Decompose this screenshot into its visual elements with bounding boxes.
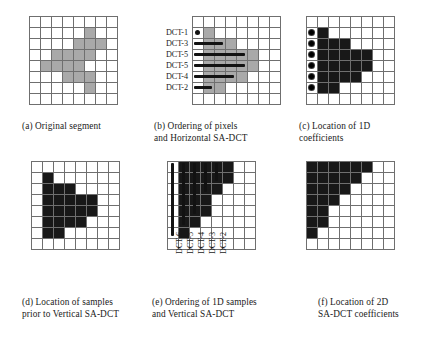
grid-cell	[223, 217, 234, 228]
panel-f	[306, 161, 395, 250]
grid-cell	[193, 39, 204, 50]
grid-cell	[351, 184, 362, 195]
grid-cell	[96, 17, 107, 28]
grid-cell	[226, 39, 237, 50]
panel-a-grid	[29, 16, 118, 105]
grid-cell	[87, 239, 98, 250]
grid-cell	[373, 206, 384, 217]
grid-cell	[179, 206, 190, 217]
grid-cell	[307, 239, 318, 250]
grid-cell	[212, 173, 223, 184]
grid-cell	[87, 228, 98, 239]
grid-cell	[340, 173, 351, 184]
grid-cell	[340, 17, 351, 28]
grid-cell	[204, 50, 215, 61]
grid-cell	[340, 217, 351, 228]
grid-cell	[43, 206, 54, 217]
grid-cell	[318, 94, 329, 105]
grid-cell	[54, 184, 65, 195]
grid-cell	[340, 239, 351, 250]
grid-cell	[226, 50, 237, 61]
grid-cell	[179, 217, 190, 228]
grid-cell	[234, 228, 245, 239]
grid-cell	[76, 184, 87, 195]
grid-cell	[373, 28, 384, 39]
grid-cell	[179, 162, 190, 173]
grid-cell	[362, 28, 373, 39]
grid-cell	[270, 28, 281, 39]
grid-cell	[109, 184, 120, 195]
grid-cell	[362, 50, 373, 61]
grid-cell	[351, 39, 362, 50]
grid-cell	[168, 217, 179, 228]
grid-cell	[30, 94, 41, 105]
grid-cell	[384, 39, 395, 50]
grid-cell	[52, 50, 63, 61]
grid-cell	[87, 173, 98, 184]
grid-cell	[212, 184, 223, 195]
grid-cell	[362, 239, 373, 250]
grid-cell	[43, 162, 54, 173]
grid-cell	[318, 61, 329, 72]
grid-cell	[362, 184, 373, 195]
grid-cell	[223, 195, 234, 206]
grid-cell	[179, 195, 190, 206]
grid-cell	[109, 228, 120, 239]
grid-cell	[65, 217, 76, 228]
panel-b: DCT-1DCT-3DCT-5DCT-5DCT-4DCT-2	[192, 16, 281, 105]
grid-cell	[329, 72, 340, 83]
grid-cell	[98, 162, 109, 173]
grid-cell	[41, 83, 52, 94]
grid-cell	[307, 94, 318, 105]
grid-cell	[384, 206, 395, 217]
grid-cell	[201, 217, 212, 228]
grid-cell	[329, 173, 340, 184]
grid-cell	[318, 72, 329, 83]
grid-cell	[32, 173, 43, 184]
grid-cell	[245, 173, 256, 184]
grid-cell	[234, 206, 245, 217]
panel-d	[31, 161, 120, 250]
grid-cell	[63, 83, 74, 94]
grid-cell	[318, 217, 329, 228]
grid-cell	[259, 39, 270, 50]
grid-cell	[193, 17, 204, 28]
grid-cell	[237, 17, 248, 28]
grid-cell	[54, 239, 65, 250]
grid-cell	[85, 94, 96, 105]
grid-cell	[307, 184, 318, 195]
grid-cell	[74, 72, 85, 83]
grid-cell	[30, 72, 41, 83]
grid-cell	[168, 195, 179, 206]
grid-cell	[384, 17, 395, 28]
grid-cell	[270, 50, 281, 61]
grid-cell	[259, 17, 270, 28]
grid-cell	[76, 206, 87, 217]
grid-cell	[65, 184, 76, 195]
grid-cell	[270, 17, 281, 28]
grid-cell	[248, 94, 259, 105]
grid-cell	[373, 162, 384, 173]
grid-cell	[107, 28, 118, 39]
grid-cell	[204, 83, 215, 94]
grid-cell	[384, 239, 395, 250]
grid-cell	[98, 195, 109, 206]
dct-col-label: DCT-5	[186, 232, 195, 254]
grid-cell	[190, 217, 201, 228]
grid-cell	[318, 206, 329, 217]
grid-cell	[85, 83, 96, 94]
grid-cell	[362, 17, 373, 28]
grid-cell	[362, 72, 373, 83]
grid-cell	[30, 61, 41, 72]
grid-cell	[201, 173, 212, 184]
grid-cell	[329, 217, 340, 228]
grid-cell	[107, 94, 118, 105]
grid-cell	[98, 228, 109, 239]
grid-cell	[98, 173, 109, 184]
grid-cell	[32, 162, 43, 173]
grid-cell	[168, 206, 179, 217]
grid-cell	[41, 17, 52, 28]
grid-cell	[223, 173, 234, 184]
grid-cell	[54, 206, 65, 217]
grid-cell	[190, 206, 201, 217]
